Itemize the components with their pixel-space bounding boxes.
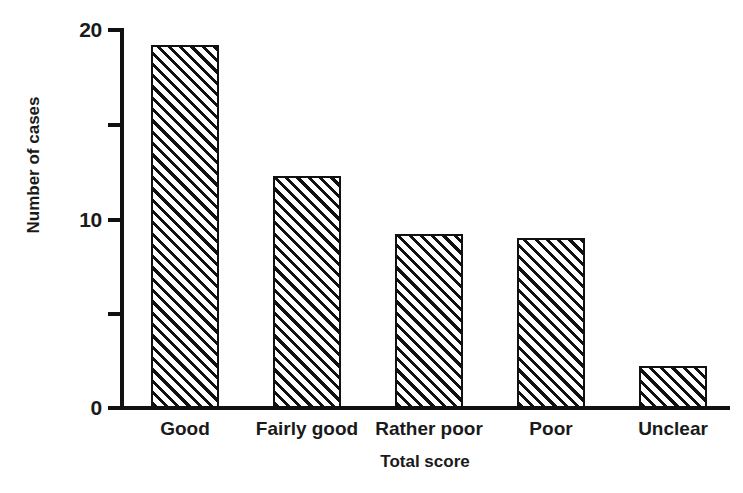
- x-axis-title: Total score: [120, 452, 730, 472]
- x-tick-label-rather-poor: Rather poor: [359, 418, 499, 440]
- bar-unclear: [639, 366, 707, 408]
- x-tick-label-good: Good: [115, 418, 255, 440]
- x-tick-label-poor: Poor: [481, 418, 621, 440]
- bar-fairly-good: [273, 176, 341, 408]
- x-tick-label-unclear: Unclear: [603, 418, 743, 440]
- x-tick-label-fairly-good: Fairly good: [237, 418, 377, 440]
- x-axis-line: [110, 406, 730, 410]
- bar-chart-figure: Number of cases 20 10 0 GoodFairly goodR…: [0, 0, 743, 493]
- bar-poor: [517, 238, 585, 408]
- bar-good: [151, 45, 219, 408]
- bar-rather-poor: [395, 234, 463, 408]
